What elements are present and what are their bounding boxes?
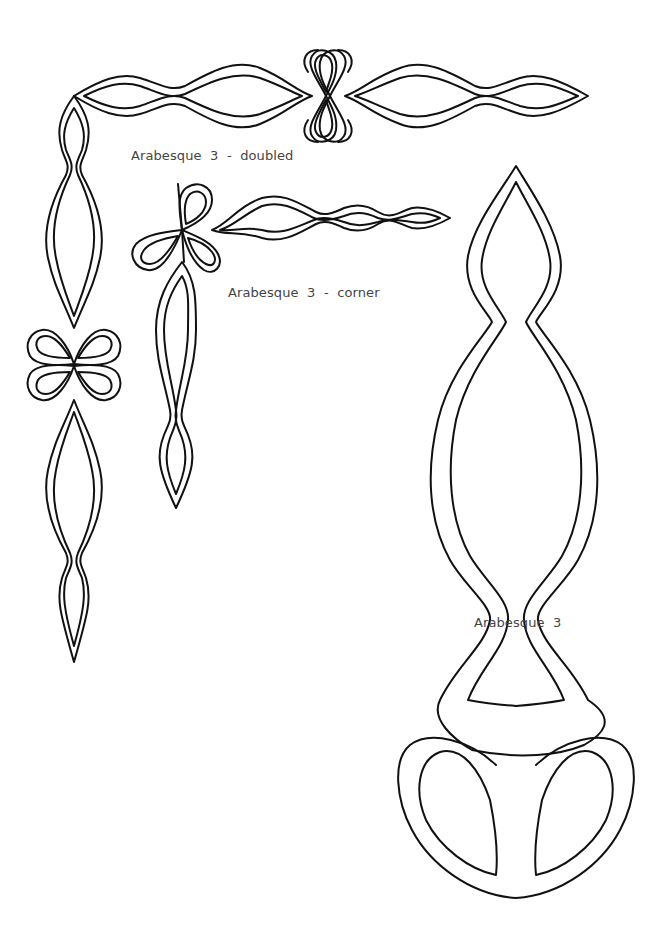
label-doubled: Arabesque 3 - doubled (131, 148, 293, 163)
ornament-canvas (0, 0, 663, 945)
large-arabesque-bow-base (398, 738, 634, 898)
doubled-vertical-arm (46, 96, 102, 662)
pattern-sheet: Arabesque 3 - doubled Arabesque 3 - corn… (0, 0, 663, 945)
corner-piece (132, 184, 450, 508)
doubled-side-bow-knot (28, 330, 121, 400)
large-arabesque (431, 166, 605, 755)
label-corner: Arabesque 3 - corner (228, 285, 380, 300)
label-single: Arabesque 3 (474, 615, 561, 630)
